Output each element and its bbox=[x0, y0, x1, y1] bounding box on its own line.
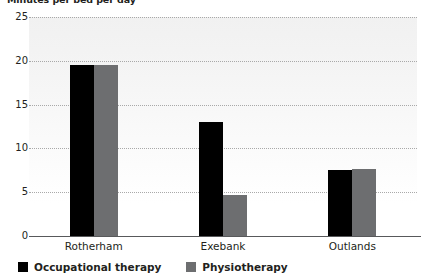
bar bbox=[70, 65, 94, 236]
legend-label: Occupational therapy bbox=[34, 261, 161, 273]
y-axis-tick-label: 0 bbox=[0, 230, 28, 241]
bar bbox=[94, 65, 118, 236]
category-label: Exebank bbox=[163, 240, 283, 252]
legend-swatch-icon bbox=[186, 262, 196, 272]
legend: Occupational therapyPhysiotherapy bbox=[18, 261, 288, 273]
category-label: Outlands bbox=[292, 240, 412, 252]
category-label: Rotherham bbox=[34, 240, 154, 252]
bar-chart: Minutes per bed per day 0510152025 Rothe… bbox=[0, 0, 423, 280]
y-axis-tick-label: 20 bbox=[0, 55, 28, 66]
y-axis-tick-label: 10 bbox=[0, 142, 28, 153]
y-axis-tick-label: 25 bbox=[0, 11, 28, 22]
legend-item: Occupational therapy bbox=[18, 261, 161, 273]
bar bbox=[199, 122, 223, 236]
legend-label: Physiotherapy bbox=[202, 261, 287, 273]
legend-item: Physiotherapy bbox=[186, 261, 287, 273]
bar bbox=[352, 169, 376, 236]
y-axis-tick-label: 5 bbox=[0, 186, 28, 197]
bar bbox=[328, 170, 352, 236]
bar bbox=[223, 195, 247, 236]
y-axis-tick-label: 15 bbox=[0, 99, 28, 110]
legend-swatch-icon bbox=[18, 262, 28, 272]
